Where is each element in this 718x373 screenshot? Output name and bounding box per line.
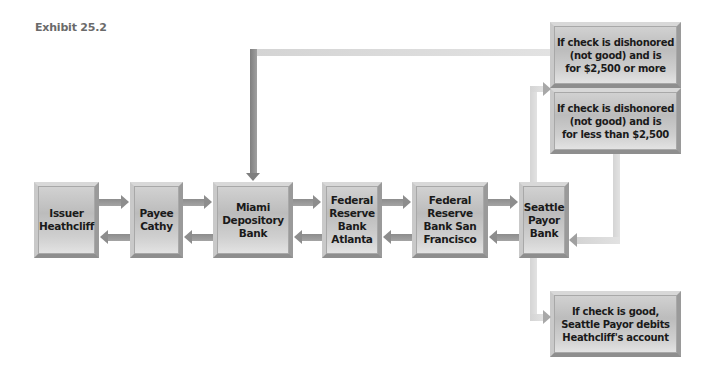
node-label: Federal Reserve Bank San Francisco (423, 194, 476, 246)
connector-small-dishonored-down (613, 154, 620, 244)
node-label: Federal Reserve Bank Atlanta (329, 194, 375, 246)
arrow-miami-to-payee (191, 234, 213, 241)
arrow-atlanta-to-miami (301, 234, 322, 241)
node-label: Miami Depository Bank (222, 201, 284, 240)
node-label: Payee Cathy (140, 207, 174, 233)
arrow-payee-to-issuer (107, 234, 130, 241)
node-label: Seattle Payor Bank (524, 201, 564, 240)
arrow-tip-to-seattle (569, 233, 577, 247)
connector-seattle-down (530, 258, 537, 320)
connector-seattle-up (530, 86, 537, 182)
connector-seattle-down-horizontal (530, 314, 544, 321)
node-federal-reserve-atlanta: Federal Reserve Bank Atlanta (322, 182, 382, 258)
node-payee-cathy: Payee Cathy (130, 182, 183, 258)
node-miami-depository-bank: Miami Depository Bank (213, 182, 293, 258)
outcome-label: If check is dishonored (not good) and is… (557, 102, 674, 141)
arrow-payee-to-miami (183, 199, 205, 206)
arrow-tip-to-good-outcome (543, 310, 551, 324)
node-label: Issuer Heathcliff (39, 207, 94, 233)
arrow-issuer-to-payee (99, 199, 122, 206)
node-federal-reserve-san-francisco: Federal Reserve Bank San Francisco (412, 182, 488, 258)
outcome-dishonored-less-than-2500: If check is dishonored (not good) and is… (550, 88, 681, 154)
node-issuer-heathcliff: Issuer Heathcliff (34, 182, 99, 258)
arrow-miami-to-atlanta (293, 199, 314, 206)
outcome-dishonored-2500-or-more: If check is dishonored (not good) and is… (550, 22, 681, 88)
outcome-label: If check is dishonored (not good) and is… (557, 36, 674, 75)
arrow-sf-to-seattle (488, 199, 511, 206)
connector-small-dishonored-horizontal (577, 237, 620, 244)
arrow-atlanta-to-sf (382, 199, 404, 206)
arrow-seattle-to-sf (496, 234, 519, 241)
connector-seattle-up-horizontal (530, 86, 544, 92)
arrow-large-dishonored-to-miami (250, 49, 257, 174)
arrow-sf-to-atlanta (390, 234, 412, 241)
exhibit-title: Exhibit 25.2 (35, 21, 107, 34)
node-seattle-payor-bank: Seattle Payor Bank (519, 182, 569, 258)
arrow-tip-to-outcome-boxes (543, 82, 551, 96)
outcome-label: If check is good, Seattle Payor debits H… (561, 305, 670, 344)
connector-large-dishonored-horizontal (250, 49, 550, 56)
outcome-check-good: If check is good, Seattle Payor debits H… (550, 291, 681, 357)
